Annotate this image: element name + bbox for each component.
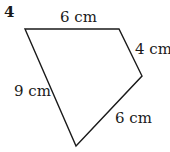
label-left-side: 9 cm — [14, 82, 51, 100]
quadrilateral-diagram: 4 6 cm 4 cm 9 cm 6 cm — [0, 0, 170, 152]
label-right-lower-side: 6 cm — [115, 109, 152, 127]
label-top-side: 6 cm — [60, 8, 97, 26]
label-right-upper-side: 4 cm — [135, 40, 170, 58]
question-number: 4 — [4, 3, 14, 21]
